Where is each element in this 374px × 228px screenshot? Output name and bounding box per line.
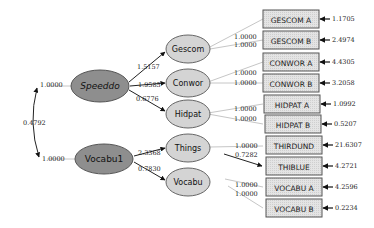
latent-things[interactable]: Things (166, 134, 210, 162)
latent-vocabu[interactable]: Vocabu (166, 168, 210, 196)
observed-vocabu-a[interactable]: VOCABU A (266, 178, 322, 196)
latent-gescom-label: Gescom (172, 45, 205, 54)
latent-things-label: Things (174, 144, 202, 153)
loading-things: 2.3368 (138, 150, 161, 157)
latent-vocabu1[interactable]: Vocabu1 (75, 144, 133, 174)
latent-conwor[interactable]: Conwor (166, 69, 210, 97)
error-hidpat-b: 0.5207 (334, 121, 357, 128)
observed-thiblue-label: THIBLUE (277, 163, 310, 172)
observed-vocabu-b[interactable]: VOCABU B (266, 199, 322, 217)
error-conwor-a: 4.4305 (332, 59, 355, 66)
latent-speeddo[interactable]: Speeddo (71, 70, 129, 102)
loading-hidpat: 0.6776 (136, 96, 159, 103)
loading-thirdund: 1.0000 (235, 143, 258, 150)
observed-gescom-a-label: GESCOM A (271, 16, 312, 25)
error-vocabu-b: 0.2234 (335, 205, 358, 212)
observed-hidpat-b[interactable]: HIDPAT B (265, 115, 321, 133)
loading-hidpat-a: 1.0000 (234, 106, 257, 113)
loading-hidpat-b: 1.0000 (234, 116, 257, 123)
observed-conwor-a-label: CONWOR A (270, 59, 314, 68)
error-thirdund: 21.6307 (335, 142, 362, 149)
loading-conwor-a: 1.0000 (234, 70, 257, 77)
sem-path-diagram: Speeddo Vocabu1 Gescom Conwor Hidpat Thi… (0, 0, 374, 228)
speeddo-variance: 1.0000 (40, 82, 63, 89)
latent-vocabu-label: Vocabu (173, 178, 202, 187)
loading-vocabu-a: 1.0000 (235, 182, 258, 189)
observed-conwor-b-label: CONWOR B (270, 80, 313, 89)
observed-conwor-b[interactable]: CONWOR B (263, 74, 319, 92)
error-vocabu-a: 4.2596 (335, 184, 358, 191)
error-hidpat-a: 1.0992 (333, 101, 356, 108)
error-gescom-a: 1.1705 (332, 16, 355, 23)
observed-vocabu-b-label: VOCABU B (274, 205, 313, 214)
observed-hidpat-a[interactable]: HIDPAT A (264, 95, 320, 113)
latent-speeddo-label: Speeddo (80, 81, 120, 91)
observed-hidpat-a-label: HIDPAT A (275, 101, 310, 110)
loading-gescom-b: 1.0000 (234, 42, 257, 49)
observed-thirdund[interactable]: THIRDUND (266, 136, 322, 154)
observed-vocabu-a-label: VOCABU A (274, 184, 314, 193)
observed-gescom-b-label: GESCOM B (271, 37, 311, 46)
error-gescom-b: 2.4974 (332, 37, 355, 44)
latent-vocabu1-label: Vocabu1 (85, 154, 124, 164)
vocabu1-variance: 1.0000 (42, 156, 65, 163)
observed-gescom-b[interactable]: GESCOM B (263, 31, 319, 49)
loading-vocabu-b: 1.0000 (235, 191, 258, 198)
loading-vocabu: 0.7830 (138, 166, 161, 173)
loading-gescom: 1.5157 (137, 64, 160, 71)
error-thiblue: 4.2721 (335, 163, 358, 170)
loading-conwor-b: 1.0000 (234, 80, 257, 87)
loading-conwor: 1.9585 (138, 82, 161, 89)
error-conwor-b: 3.2058 (332, 80, 355, 87)
structural-paths (129, 52, 165, 180)
observed-gescom-a[interactable]: GESCOM A (263, 10, 319, 28)
observed-variables: GESCOM A GESCOM B CONWOR A CONWOR B HIDP… (263, 10, 322, 217)
observed-hidpat-b-label: HIDPAT B (276, 121, 310, 130)
factor-covariance-value: 0.4792 (23, 120, 46, 127)
loading-thiblue: 0.7282 (235, 152, 258, 159)
observed-thirdund-label: THIRDUND (273, 142, 315, 151)
observed-conwor-a[interactable]: CONWOR A (263, 53, 319, 71)
latent-hidpat-label: Hidpat (175, 110, 201, 119)
latent-gescom[interactable]: Gescom (166, 35, 210, 63)
loading-gescom-a: 1.0000 (234, 34, 257, 41)
observed-thiblue[interactable]: THIBLUE (266, 157, 322, 175)
latent-conwor-label: Conwor (173, 79, 204, 88)
latent-hidpat[interactable]: Hidpat (166, 100, 210, 128)
